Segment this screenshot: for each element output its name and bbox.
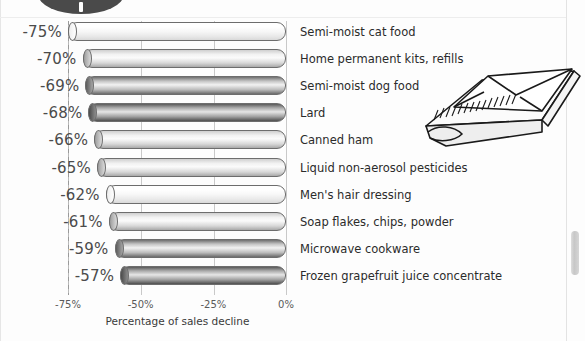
bar-end-cap [85, 76, 94, 95]
scrollbar-sliver[interactable] [571, 231, 579, 275]
bar-end-cap [109, 212, 118, 231]
bar-value-label: -70% [13, 50, 77, 68]
bar [115, 239, 286, 258]
x-tick-label: -25% [188, 299, 238, 310]
bar [94, 130, 286, 149]
category-label: Microwave cookware [300, 242, 420, 256]
page-edge-top [0, 17, 566, 18]
bar [120, 266, 286, 285]
bar [68, 22, 286, 41]
gridline-zero [286, 21, 287, 295]
bar-value-label: -75% [0, 23, 62, 41]
bar-end-cap [115, 239, 124, 258]
chart-page: -75%-70%-69%-68%-66%-65%-62%-61%-59%-57%… [0, 0, 585, 341]
category-label: Semi-moist cat food [300, 25, 415, 39]
bar-value-label: -68% [18, 104, 82, 122]
bar-value-label: -59% [45, 240, 109, 258]
category-label: Canned ham [300, 133, 373, 147]
x-axis-title: Percentage of sales decline [68, 315, 287, 327]
envelope-illustration [424, 62, 584, 162]
bar-value-label: -65% [27, 159, 91, 177]
bar-end-cap [120, 266, 129, 285]
category-label: Liquid non-aerosol pesticides [300, 161, 468, 175]
bar-end-cap [88, 103, 97, 122]
bar-value-label: -61% [39, 213, 103, 231]
bar-end-cap [68, 22, 77, 41]
bar-end-cap [106, 185, 115, 204]
bar [97, 158, 286, 177]
bar [85, 76, 286, 95]
dark-ellipse-notch [79, 2, 83, 12]
bar-value-label: -62% [36, 186, 100, 204]
category-label: Lard [300, 106, 325, 120]
x-tick-label: -75% [43, 299, 93, 310]
bar-value-label: -69% [15, 77, 79, 95]
bar [109, 212, 286, 231]
x-tick-label: -50% [116, 299, 166, 310]
bar-value-label: -57% [50, 267, 114, 285]
category-label: Frozen grapefruit juice concentrate [300, 269, 502, 283]
x-tick-label: 0% [261, 299, 311, 310]
page-edge-right [566, 0, 567, 341]
bar-end-cap [94, 130, 103, 149]
category-label: Men's hair dressing [300, 188, 412, 202]
bar [83, 49, 286, 68]
page-edge-left [0, 0, 1, 341]
bar-value-label: -66% [24, 131, 88, 149]
category-label: Soap flakes, chips, powder [300, 215, 454, 229]
category-label: Semi-moist dog food [300, 79, 419, 93]
bar [88, 103, 286, 122]
bar-end-cap [83, 49, 92, 68]
bar [106, 185, 286, 204]
bar-end-cap [97, 158, 106, 177]
